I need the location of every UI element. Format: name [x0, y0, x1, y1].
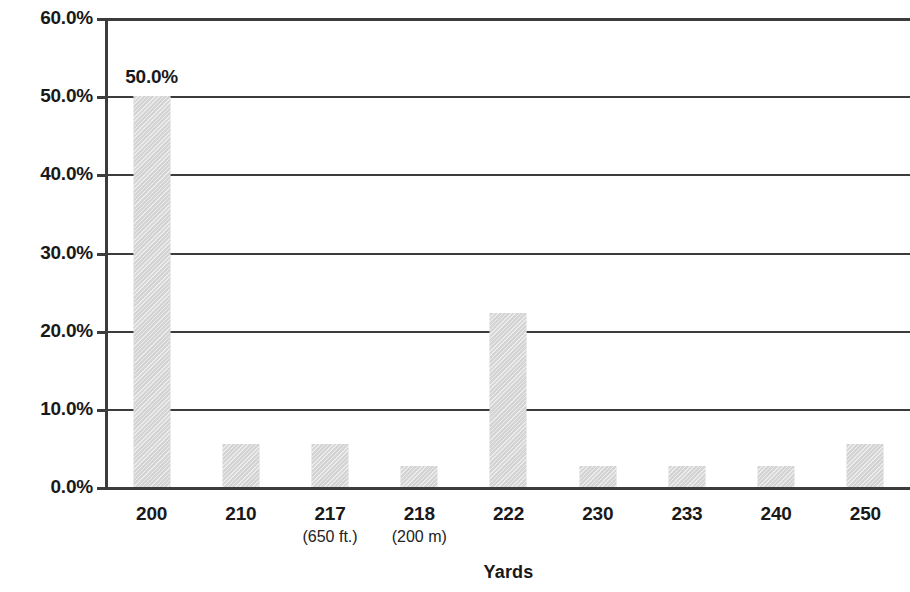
bar	[222, 444, 259, 487]
bar-group	[821, 0, 910, 487]
y-axis-tick-mark	[97, 174, 108, 177]
y-axis-tick-mark	[97, 409, 108, 412]
y-axis-tick-mark	[97, 331, 108, 334]
x-axis-category-value: 218	[375, 503, 464, 525]
x-axis-category-label: 233	[642, 503, 731, 525]
x-axis-category-label: 222	[464, 503, 553, 525]
x-axis-category-label: 240	[732, 503, 821, 525]
bar	[758, 466, 795, 487]
y-axis-tick-mark	[97, 18, 108, 21]
y-axis-tick-label: 0.0%	[7, 476, 93, 498]
bar	[401, 466, 438, 487]
bar	[133, 96, 170, 487]
bars-layer: 50.0%	[107, 0, 910, 487]
y-axis-tick-mark	[97, 96, 108, 99]
y-axis-tick-labels: 0.0%10.0%20.0%30.0%40.0%50.0%60.0%	[0, 0, 93, 592]
bar	[847, 444, 884, 487]
x-axis-title: Yards	[107, 562, 910, 583]
y-axis-tick-label: 50.0%	[7, 85, 93, 107]
x-axis-category-label: 250	[821, 503, 910, 525]
bar-group	[553, 0, 642, 487]
bar-group	[285, 0, 374, 487]
x-axis-category-value: 250	[821, 503, 910, 525]
x-axis-category-sublabel: (650 ft.)	[285, 527, 374, 547]
y-axis-tick-label: 20.0%	[7, 320, 93, 342]
x-axis-category-label: 200	[107, 503, 196, 525]
y-axis-tick-label: 40.0%	[7, 163, 93, 185]
x-axis-tick-labels: 200210217(650 ft.)218(200 m)222230233240…	[107, 503, 910, 553]
x-axis-category-sublabel: (200 m)	[375, 527, 464, 547]
x-axis-category-value: 210	[196, 503, 285, 525]
y-axis-tick-mark	[97, 487, 108, 490]
bar-group	[732, 0, 821, 487]
x-axis-category-label: 210	[196, 503, 285, 525]
x-axis-category-value: 233	[642, 503, 731, 525]
gridline	[107, 487, 910, 490]
x-axis-category-value: 200	[107, 503, 196, 525]
bar	[490, 313, 527, 487]
y-axis-tick-label: 30.0%	[7, 242, 93, 264]
bar-group: 50.0%	[107, 0, 196, 487]
bar	[312, 444, 349, 487]
bar-value-label: 50.0%	[125, 66, 178, 88]
x-axis-category-label: 217(650 ft.)	[285, 503, 374, 547]
bar	[579, 466, 616, 487]
x-axis-category-value: 240	[732, 503, 821, 525]
bar-chart: 0.0%10.0%20.0%30.0%40.0%50.0%60.0% 50.0%…	[0, 0, 910, 592]
y-axis-tick-label: 10.0%	[7, 398, 93, 420]
x-axis-category-value: 217	[285, 503, 374, 525]
x-axis-category-value: 222	[464, 503, 553, 525]
bar	[668, 466, 705, 487]
y-axis-tick-mark	[97, 253, 108, 256]
x-axis-category-label: 218(200 m)	[375, 503, 464, 547]
y-axis-tick-label: 60.0%	[7, 7, 93, 29]
bar-group	[196, 0, 285, 487]
bar-group	[464, 0, 553, 487]
x-axis-category-label: 230	[553, 503, 642, 525]
x-axis-category-value: 230	[553, 503, 642, 525]
bar-group	[375, 0, 464, 487]
bar-group	[642, 0, 731, 487]
